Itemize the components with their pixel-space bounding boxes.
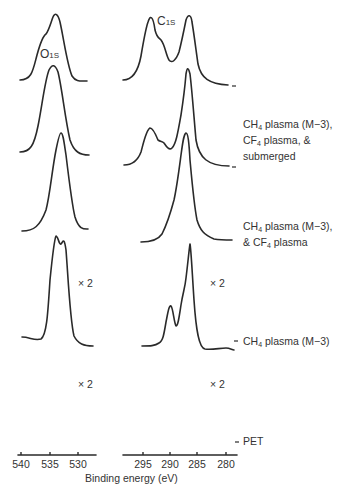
c1s-sample3-multiplier: × 2 xyxy=(210,277,225,289)
x-axis-label: Binding energy (eV) xyxy=(85,472,178,484)
o1s-pet-multiplier: × 2 xyxy=(78,378,93,390)
s2-l1b: plasma (M−3), xyxy=(262,220,332,232)
o1s-core-subscript: 1S xyxy=(49,51,59,60)
c1s-trace-sample1 xyxy=(123,16,228,85)
s3-l1b: plasma (M−3) xyxy=(262,335,329,347)
sample2-label: CH4 plasma (M−3), & CF4 plasma xyxy=(243,220,332,252)
o1s-ticklabel-535: 535 xyxy=(41,458,59,470)
c1s-trace-pet xyxy=(142,244,234,350)
o1s-trace-pet xyxy=(22,236,93,346)
c1s-core-subscript: 1S xyxy=(166,18,176,27)
s1-l2b: plasma, & xyxy=(261,134,311,146)
s1-l1b: plasma (M−3), xyxy=(262,118,332,130)
o1s-sample3-multiplier: × 2 xyxy=(78,277,93,289)
pet-text: PET xyxy=(243,435,263,447)
pet-label: PET xyxy=(243,435,263,447)
s2-l2b: plasma xyxy=(271,236,308,248)
o1s-ticklabel-530: 530 xyxy=(69,458,87,470)
c1s-ticklabel-280: 280 xyxy=(217,458,235,470)
o1s-label: O1S xyxy=(40,47,59,61)
c1s-core-symbol: C xyxy=(157,14,166,28)
c1s-trace-sample3 xyxy=(141,133,232,242)
o1s-ticklabel-540: 540 xyxy=(12,458,30,470)
c1s-ticklabel-285: 285 xyxy=(188,458,206,470)
s3-l1a: CH xyxy=(243,335,258,347)
sample1-label: CH4 plasma (M−3), CF4 plasma, & submerge… xyxy=(243,118,332,162)
o1s-trace-sample2 xyxy=(20,66,89,155)
c1s-label: C1S xyxy=(157,14,175,28)
s2-l1a: CH xyxy=(243,220,258,232)
s1-l1a: CH xyxy=(243,118,258,130)
c1s-pet-multiplier: × 2 xyxy=(210,378,225,390)
sample3-label: CH4 plasma (M−3) xyxy=(243,335,329,351)
c1s-ticklabel-295: 295 xyxy=(134,458,152,470)
c1s-ticklabel-290: 290 xyxy=(161,458,179,470)
s2-l2a: & CF xyxy=(243,236,267,248)
s1-l3: submerged xyxy=(243,150,332,162)
s1-l2a: CF xyxy=(243,134,257,146)
o1s-core-symbol: O xyxy=(40,47,49,61)
o1s-trace-sample3 xyxy=(22,133,88,231)
